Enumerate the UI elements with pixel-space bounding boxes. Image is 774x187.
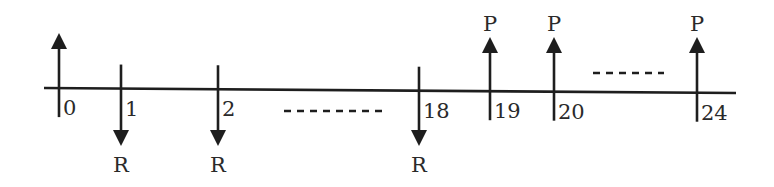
arrow-head-up-icon: [482, 37, 498, 53]
payment-label: P: [690, 12, 704, 36]
period-label: 2: [222, 97, 235, 121]
period-label: 18: [423, 99, 450, 123]
period-label: 20: [558, 100, 585, 124]
period-label: 24: [701, 101, 728, 125]
period-20: P20: [546, 12, 585, 124]
receipt-label: R: [113, 153, 130, 177]
arrow-head-up-icon: [689, 37, 705, 53]
payment-label: P: [483, 12, 497, 36]
payment-label: P: [547, 12, 561, 36]
cash-flow-diagram: 0R1R2R18P19P20P24: [0, 0, 774, 187]
arrow-head-up-icon: [546, 37, 562, 53]
arrow-head-up-icon: [51, 33, 67, 49]
arrow-head-down-icon: [113, 130, 129, 146]
arrow-head-down-icon: [411, 130, 427, 146]
period-19: P19: [482, 12, 521, 123]
period-label: 19: [494, 99, 521, 123]
time-axis: [44, 88, 736, 93]
period-2: R2: [210, 65, 235, 177]
period-0: 0: [51, 33, 76, 120]
period-18: R18: [411, 67, 450, 177]
arrow-head-down-icon: [210, 130, 226, 146]
period-group: 0R1R2R18P19P20P24: [51, 12, 728, 177]
receipt-label: R: [411, 153, 428, 177]
period-label: 1: [125, 97, 138, 121]
period-24: P24: [689, 12, 728, 125]
period-label: 0: [63, 96, 76, 120]
receipt-label: R: [210, 153, 227, 177]
period-1: R1: [113, 65, 138, 177]
